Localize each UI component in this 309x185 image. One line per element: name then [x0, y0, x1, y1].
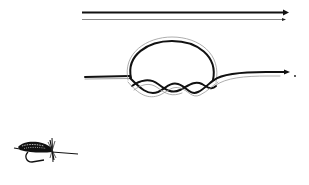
arrowhead-icon — [283, 10, 289, 16]
knot — [85, 37, 296, 97]
arrowhead-icon — [284, 70, 290, 75]
knot-diagram — [0, 0, 309, 185]
fly-lure-icon — [14, 138, 78, 162]
parallel-lines — [82, 10, 289, 22]
arrowhead-icon — [282, 18, 286, 21]
diagram-canvas — [0, 0, 309, 185]
